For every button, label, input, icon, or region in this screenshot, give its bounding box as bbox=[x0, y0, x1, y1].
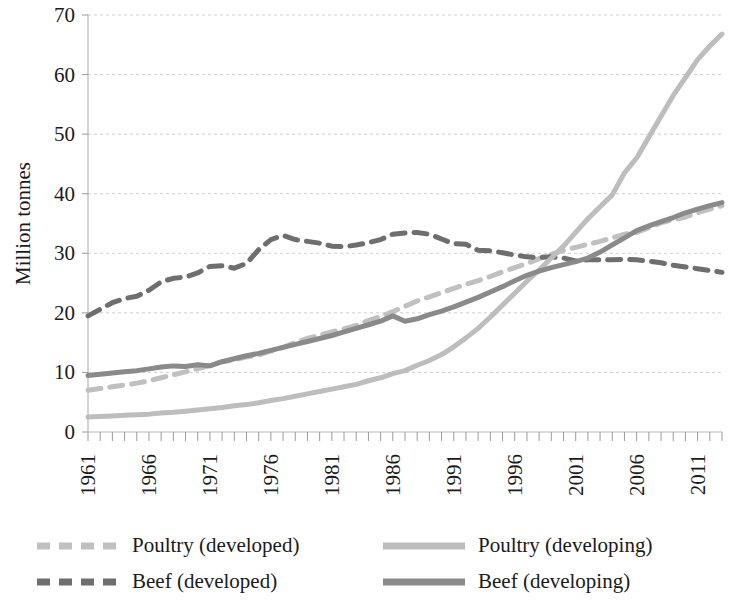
x-tick-label: 1986 bbox=[381, 454, 405, 496]
chart-legend: Poultry (developed)Poultry (developing)B… bbox=[37, 533, 652, 593]
y-axis-title-text: Million tonnes bbox=[11, 162, 35, 285]
data-series bbox=[88, 34, 722, 417]
y-tick-label: 40 bbox=[54, 182, 75, 206]
series-line bbox=[88, 203, 722, 376]
legend-label: Poultry (developed) bbox=[132, 533, 299, 557]
y-tick-label: 70 bbox=[54, 3, 75, 27]
y-tick-label: 10 bbox=[54, 360, 75, 384]
x-tick-label: 1971 bbox=[198, 454, 222, 496]
y-axis-title: Million tonnes bbox=[11, 162, 35, 285]
x-tick-label: 1961 bbox=[76, 454, 100, 496]
y-tick-label: 30 bbox=[54, 241, 75, 265]
x-axis-tick-labels: 1961196619711976198119861991199620012006… bbox=[76, 454, 710, 496]
x-tick-label: 1976 bbox=[259, 454, 283, 496]
y-tick-label: 60 bbox=[54, 63, 75, 87]
series-line bbox=[88, 232, 722, 315]
x-tick-label: 1996 bbox=[503, 454, 527, 496]
y-tick-label: 20 bbox=[54, 301, 75, 325]
x-tick-label: 2011 bbox=[686, 454, 710, 495]
x-tick-label: 1981 bbox=[320, 454, 344, 496]
legend-label: Poultry (developing) bbox=[478, 533, 652, 557]
legend-label: Beef (developing) bbox=[478, 569, 630, 593]
x-tick-label: 2001 bbox=[564, 454, 588, 496]
y-tick-label: 50 bbox=[54, 122, 75, 146]
line-chart: 010203040506070 196119661971197619811986… bbox=[0, 0, 735, 608]
legend-label: Beef (developed) bbox=[132, 569, 277, 593]
series-line bbox=[88, 34, 722, 417]
y-axis-tick-labels: 010203040506070 bbox=[54, 3, 75, 444]
x-axis-tickmarks bbox=[88, 432, 722, 441]
x-tick-label: 2006 bbox=[625, 454, 649, 496]
chart-page: 010203040506070 196119661971197619811986… bbox=[0, 0, 735, 608]
x-tick-label: 1966 bbox=[137, 454, 161, 496]
y-tick-label: 0 bbox=[65, 420, 76, 444]
x-tick-label: 1991 bbox=[442, 454, 466, 496]
